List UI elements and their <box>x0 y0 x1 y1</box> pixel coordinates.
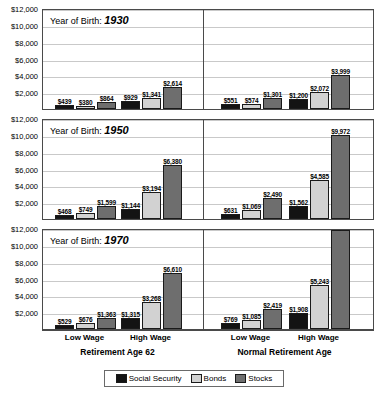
y-axis-tick: $10,000 <box>11 21 38 30</box>
y-axis-tick: $12,000 <box>11 5 38 14</box>
x-axis-label: High Wage <box>130 333 171 342</box>
bar-value-label: $1,085 <box>242 313 261 320</box>
bar-ss: $929 <box>121 101 140 109</box>
group-divider <box>203 120 204 219</box>
bar-bd: $3,194 <box>142 192 161 219</box>
legend-label: Stocks <box>248 374 272 383</box>
gridline <box>43 77 373 78</box>
bar-ss: $631 <box>221 214 240 219</box>
legend-item[interactable]: Stocks <box>235 374 272 383</box>
bar-bd: $2,072 <box>310 92 329 109</box>
panel-label: Year of Birth: 1930 <box>50 14 129 26</box>
bar-value-label: $929 <box>124 94 138 101</box>
bar-bd: $5,243 <box>310 285 329 329</box>
bar-ss: $529 <box>55 325 74 329</box>
panel-label: Year of Birth: 1950 <box>50 124 129 136</box>
bar-bd: $1,341 <box>142 98 161 109</box>
bar-value-label: $529 <box>58 318 72 325</box>
panel-label-prefix: Year of Birth: <box>50 126 102 136</box>
y-axis-tick: $2,000 <box>15 199 38 208</box>
y-axis-tick: $2,000 <box>15 309 38 318</box>
bar-bd: $574 <box>242 104 261 109</box>
panel-label-prefix: Year of Birth: <box>50 16 102 26</box>
bar-st: $6,380 <box>163 165 182 219</box>
gridline <box>43 120 373 121</box>
bar-value-label: $1,315 <box>121 311 140 318</box>
chart-legend: Social SecurityBondsStocks <box>104 370 284 387</box>
bar-ss: $1,315 <box>121 318 140 329</box>
gridline <box>43 264 373 265</box>
bar-value-label: $574 <box>245 97 259 104</box>
bar-bd: $1,085 <box>242 320 261 329</box>
bar-st: $1,363 <box>97 318 116 329</box>
legend-swatch-ss <box>116 374 127 383</box>
bar-value-label: $2,614 <box>163 80 182 87</box>
legend-swatch-st <box>235 374 246 383</box>
bar-value-label: $1,341 <box>142 91 161 98</box>
y-axis-tick: $2,000 <box>15 89 38 98</box>
bar-value-label: $2,419 <box>263 302 282 309</box>
bar-value-label: $380 <box>79 99 93 106</box>
legend-item[interactable]: Bonds <box>191 374 227 383</box>
bar-bd: $4,585 <box>310 180 329 219</box>
y-axis-tick: $4,000 <box>15 182 38 191</box>
legend-label: Bonds <box>204 374 227 383</box>
bar-value-label: $676 <box>79 316 93 323</box>
bar-ss: $1,144 <box>121 209 140 219</box>
bar-ss: $769 <box>221 323 240 329</box>
bar-st: $11,729 <box>331 230 350 329</box>
bar-value-label: $631 <box>224 207 238 214</box>
y-axis-tick: $4,000 <box>15 292 38 301</box>
x-axis-label: Low Wage <box>231 333 270 342</box>
chart-title <box>0 0 381 2</box>
x-axis-group-labels: Retirement Age 62Normal Retirement Age <box>42 347 374 360</box>
bar-bd: $749 <box>76 213 95 219</box>
bar-st: $2,490 <box>263 198 282 219</box>
bar-st: $1,301 <box>263 98 282 109</box>
bar-value-label: $2,490 <box>263 191 282 198</box>
bar-bd: $380 <box>76 106 95 109</box>
bar-st: $6,610 <box>163 273 182 329</box>
bar-value-label: $9,972 <box>331 128 350 135</box>
bar-value-label: $6,380 <box>163 158 182 165</box>
bar-st: $1,599 <box>97 206 116 219</box>
y-axis-tick: $6,000 <box>15 165 38 174</box>
bar-value-label: $5,243 <box>310 278 329 285</box>
bar-value-label: $1,144 <box>121 202 140 209</box>
bar-ss: $439 <box>55 105 74 109</box>
y-axis-tick: $4,000 <box>15 72 38 81</box>
gridline <box>43 171 373 172</box>
bar-ss: $1,562 <box>289 206 308 219</box>
bar-bd: $1,069 <box>242 210 261 219</box>
bar-st: $3,999 <box>331 75 350 109</box>
x-axis-label: High Wage <box>298 333 339 342</box>
bar-value-label: $3,268 <box>142 295 161 302</box>
bar-st: $864 <box>97 102 116 109</box>
bar-value-label: $551 <box>224 97 238 104</box>
gridline <box>43 61 373 62</box>
y-axis-tick: $8,000 <box>15 148 38 157</box>
bar-value-label: $3,999 <box>331 68 350 75</box>
bar-value-label: $1,200 <box>289 92 308 99</box>
gridline <box>43 247 373 248</box>
gridline <box>43 44 373 45</box>
gridline <box>43 154 373 155</box>
panel-1970: $529$676$1,363$1,315$3,268$6,610$769$1,0… <box>42 229 374 330</box>
bar-value-label: $6,610 <box>163 266 182 273</box>
y-axis-tick: $12,000 <box>11 115 38 124</box>
bar-ss: $551 <box>221 104 240 109</box>
bar-value-label: $1,908 <box>289 306 308 313</box>
x-axis-label: Low Wage <box>65 333 104 342</box>
y-axis-tick: $10,000 <box>11 241 38 250</box>
legend-item[interactable]: Social Security <box>116 374 182 383</box>
panel-label-prefix: Year of Birth: <box>50 236 102 246</box>
y-axis-tick: $6,000 <box>15 275 38 284</box>
x-axis-group-label: Normal Retirement Age <box>237 347 331 357</box>
y-axis-tick: $8,000 <box>15 258 38 267</box>
bar-value-label: $769 <box>224 316 238 323</box>
gridline <box>43 230 373 231</box>
bar-value-label: $2,072 <box>310 85 329 92</box>
bar-value-label: $1,599 <box>97 199 116 206</box>
bar-value-label: $439 <box>58 98 72 105</box>
group-divider <box>203 230 204 329</box>
